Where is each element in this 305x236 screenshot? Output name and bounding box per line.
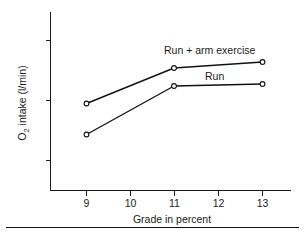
- series-label-run: Run: [205, 70, 224, 82]
- data-point-marker: [84, 132, 89, 137]
- line-chart: 9 10 11 12 13 Grade in percent O2 intake…: [0, 0, 305, 236]
- series-run-plus-arm-exercise: [84, 60, 265, 106]
- x-tick-label-9: 9: [84, 197, 90, 209]
- series-label-run-plus-arm-exercise: Run + arm exercise: [164, 44, 255, 56]
- x-tick-label-11: 11: [169, 197, 180, 209]
- data-point-marker: [260, 60, 265, 65]
- y-axis-ticks: [46, 41, 51, 161]
- y-axis-title-rest: intake (l/min): [16, 65, 28, 128]
- chart-figure: 9 10 11 12 13 Grade in percent O2 intake…: [0, 0, 305, 236]
- data-point-marker: [172, 66, 177, 71]
- data-point-marker: [84, 101, 89, 106]
- x-axis-title: Grade in percent: [133, 213, 211, 225]
- y-axis-title-main: O: [16, 133, 28, 141]
- x-axis-ticks: [87, 191, 263, 196]
- series-run-line: [87, 84, 263, 135]
- x-tick-label-13: 13: [257, 197, 269, 209]
- x-axis-tick-labels: 9 10 11 12 13: [84, 197, 269, 209]
- series-run: [84, 82, 265, 137]
- data-point-marker: [172, 84, 177, 89]
- y-axis-title: O2 intake (l/min): [16, 65, 31, 140]
- data-point-marker: [260, 82, 265, 87]
- svg-text:O2 intake (l/min): O2 intake (l/min): [16, 65, 31, 140]
- x-tick-label-12: 12: [213, 197, 225, 209]
- x-tick-label-10: 10: [125, 197, 137, 209]
